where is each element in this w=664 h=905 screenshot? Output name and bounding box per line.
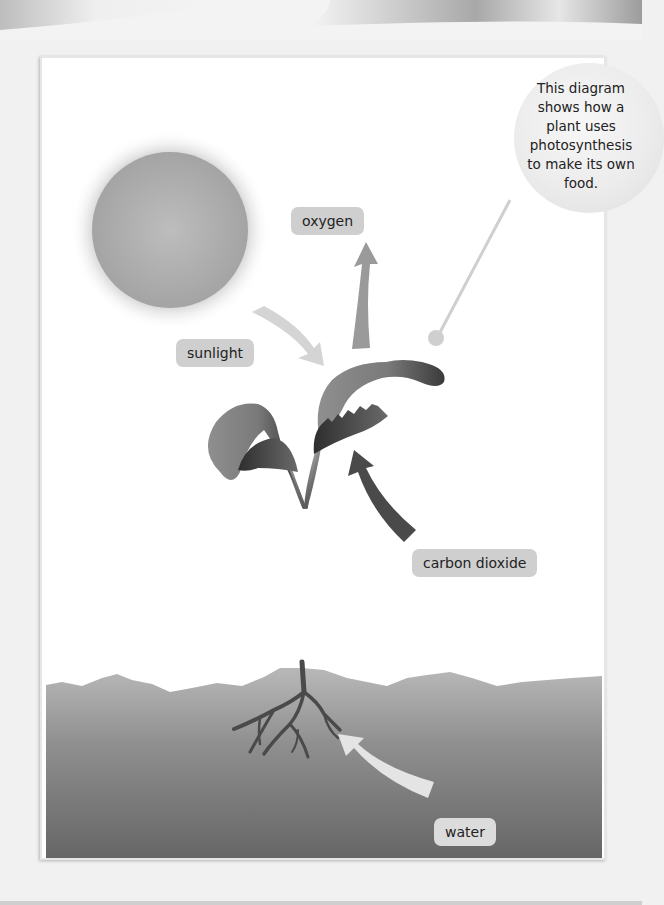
photosynthesis-illustration <box>42 58 604 858</box>
soil-ground <box>46 668 602 858</box>
water-label: water <box>434 818 496 846</box>
sunlight-label: sunlight <box>176 339 254 367</box>
sunlight-arrow-icon <box>252 306 324 366</box>
page-bottom-edge <box>0 901 642 905</box>
callout-text: This diagram shows how a plant uses phot… <box>522 79 640 193</box>
sun-icon <box>70 130 270 330</box>
callout-bubble: This diagram shows how a plant uses phot… <box>514 63 664 213</box>
carbon-dioxide-label: carbon dioxide <box>412 549 537 577</box>
page-header-swoosh <box>0 0 642 40</box>
oxygen-label: oxygen <box>291 207 364 235</box>
oxygen-arrow-icon <box>352 242 378 349</box>
carbon-dioxide-arrow-icon <box>348 450 416 542</box>
